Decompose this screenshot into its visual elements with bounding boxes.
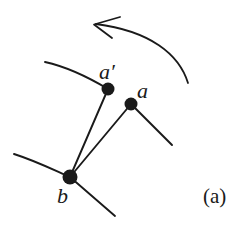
pendant-edge-b-left bbox=[14, 154, 70, 177]
node-label-b: b bbox=[57, 185, 68, 207]
node-label-a-prime: a′ bbox=[99, 61, 115, 83]
figure-panel: a′ a b (a) bbox=[0, 0, 246, 251]
edge-a-to-b bbox=[70, 104, 131, 177]
pendant-edge-b-downright bbox=[70, 177, 115, 216]
node-a-prime bbox=[102, 83, 115, 96]
pendant-edge-a-downright bbox=[131, 104, 172, 145]
edge-aprime-to-b bbox=[70, 89, 108, 177]
node-label-a: a bbox=[137, 80, 148, 102]
panel-caption: (a) bbox=[203, 186, 226, 207]
node-a bbox=[125, 98, 138, 111]
diagram-canvas bbox=[0, 0, 246, 251]
